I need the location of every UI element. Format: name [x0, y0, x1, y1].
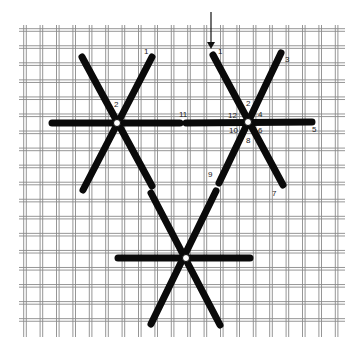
stitch-number-label: 11	[179, 110, 188, 119]
hole-left-star	[114, 120, 121, 127]
stitch-number-label: 9	[208, 170, 213, 179]
stitch-number-label: 7	[272, 189, 277, 198]
stitch-number-label: 1	[218, 47, 223, 56]
hole-bottom-star	[183, 255, 190, 262]
stitch-number-label: 4	[258, 110, 263, 119]
stitch-number-label: 5	[312, 125, 317, 134]
canvas-grid	[19, 25, 345, 337]
stitch-number-label: 10	[229, 126, 238, 135]
stitch-number-label: 1	[144, 47, 149, 56]
start-arrow	[207, 12, 215, 49]
stitch-number-label: 8	[246, 136, 251, 145]
stitch-number-label: 3	[285, 55, 290, 64]
hole-right-star	[245, 119, 252, 126]
stitch-number-label: 12	[228, 111, 237, 120]
stitch-number-label: 6	[258, 126, 263, 135]
stitch-number-label: 2	[246, 99, 251, 108]
stitch-holes	[114, 119, 252, 262]
stitch-number-label: 2	[114, 100, 119, 109]
stitch-diagram: 12111321241068579	[0, 0, 364, 359]
